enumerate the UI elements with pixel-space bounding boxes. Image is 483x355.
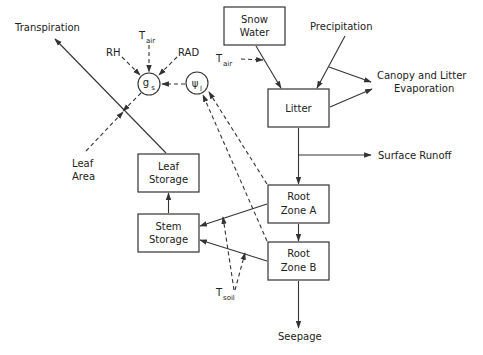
precipitation-arrow	[317, 36, 345, 88]
transpiration-label: Transpiration	[14, 22, 80, 33]
stomatal-conductance-node: g s	[138, 73, 160, 95]
seepage-label: Seepage	[278, 331, 322, 342]
snow-water-label-1: Snow	[241, 14, 268, 25]
leaf-area-control	[86, 112, 123, 151]
root-zone-a-label-2: Zone A	[281, 205, 317, 216]
litter-evaporation-arrow	[330, 89, 372, 107]
leaf-area-label-2: Area	[72, 171, 95, 182]
tair-gs-sub: air	[146, 37, 155, 45]
rad-control	[159, 57, 177, 75]
tair-snowmelt-control	[241, 59, 263, 60]
root-zone-b-box: Root Zone B	[268, 242, 329, 280]
tsoil-sub: soil	[223, 294, 235, 302]
snow-water-label-2: Water	[240, 27, 270, 38]
gs-symbol: g	[143, 77, 149, 88]
snow-water-box: Snow Water	[224, 7, 285, 45]
root-a-uptake-arrow	[200, 204, 267, 226]
stem-storage-box: Stem Storage	[138, 214, 199, 252]
tair-gs-label: T air	[138, 30, 155, 45]
root-zone-b-label-2: Zone B	[281, 262, 317, 273]
root-a-to-psi-control	[209, 92, 267, 184]
stem-storage-label-1: Stem	[155, 221, 181, 232]
tsoil-root-a-control	[223, 217, 234, 290]
gs-transpiration-control	[123, 93, 141, 111]
root-zone-a-box: Root Zone A	[268, 185, 329, 223]
leaf-storage-label-2: Storage	[149, 174, 188, 185]
tair-gs-main: T	[138, 30, 146, 41]
tair-snow-sub: air	[223, 60, 232, 68]
canopy-evaporation-arrow	[329, 67, 371, 82]
root-b-uptake-arrow	[200, 240, 267, 261]
rh-control	[122, 57, 140, 75]
root-zone-a-label-1: Root	[287, 191, 310, 202]
surface-runoff-label: Surface Runoff	[378, 150, 453, 161]
leaf-storage-box: Leaf Storage	[138, 154, 199, 192]
rad-label: RAD	[178, 47, 199, 58]
litter-label: Litter	[285, 103, 312, 114]
psi-symbol: ψ	[192, 78, 199, 89]
root-b-to-psi-control	[203, 95, 267, 241]
root-zone-b-label-1: Root	[287, 248, 310, 259]
litter-box: Litter	[268, 89, 329, 127]
psi-subscript: l	[200, 85, 202, 93]
tsoil-label: T soil	[215, 287, 235, 302]
hydrology-flow-diagram: Snow Water Litter Root Zone A Root Zone …	[0, 0, 483, 355]
leaf-water-potential-node: ψ l	[186, 72, 208, 94]
leaf-storage-label-1: Leaf	[158, 161, 180, 172]
leaf-area-label-1: Leaf	[72, 158, 94, 169]
tsoil-main: T	[215, 287, 223, 298]
canopy-evaporation-label-2: Evaporation	[394, 83, 454, 94]
tsoil-root-b-control	[235, 253, 245, 290]
stem-storage-label-2: Storage	[149, 234, 188, 245]
tair-snow-label: T air	[215, 53, 232, 68]
canopy-evaporation-label-1: Canopy and Litter	[377, 70, 467, 81]
precipitation-label: Precipitation	[310, 21, 373, 32]
snowmelt-arrow	[256, 46, 281, 88]
gs-subscript: s	[151, 84, 155, 92]
tair-snow-main: T	[215, 53, 223, 64]
rh-label: RH	[106, 47, 120, 58]
